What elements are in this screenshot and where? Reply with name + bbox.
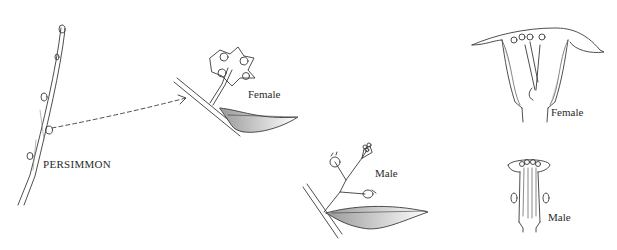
female-flower-section [472,28,604,122]
persimmon-twig [18,25,65,205]
male-flower-branch [303,143,428,238]
male-flower-section [508,160,550,233]
label-female-section: Female [551,106,583,118]
label-male-branch: Male [375,167,398,179]
persimmon-illustration: PERSIMMON Female Male Female Male [0,0,617,250]
dashed-arrow [52,95,186,128]
illustration-drawing [0,0,617,250]
label-persimmon: PERSIMMON [43,158,111,170]
label-female-branch: Female [248,88,280,100]
label-male-section: Male [548,211,571,223]
